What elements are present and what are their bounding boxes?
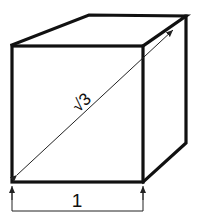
edge-length-label: 1 [72,190,83,211]
cube-diagram: √3 1 [0,0,198,222]
